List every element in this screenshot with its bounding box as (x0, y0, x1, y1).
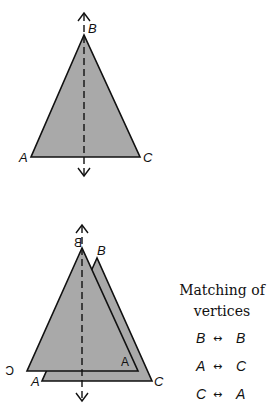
matching-legend: Matching of vertices B ↔ B A ↔ C C ↔ A (179, 282, 267, 402)
pair-left: A (195, 358, 205, 374)
pair-left: B (196, 330, 205, 346)
matching-pair: C ↔ A (196, 386, 245, 402)
matching-pair: B ↔ B (196, 330, 245, 346)
double-arrow-icon: ↔ (213, 360, 222, 373)
pair-right: B (236, 330, 245, 346)
pair-right: A (235, 386, 245, 402)
label-a-original: A (30, 374, 40, 389)
double-arrow-icon: ↔ (213, 388, 222, 401)
matching-title-line1: Matching of (179, 282, 267, 298)
label-a: A (18, 150, 28, 165)
matching-pair: A ↔ C (195, 358, 247, 374)
label-c: C (143, 150, 153, 165)
label-b: B (88, 21, 97, 36)
pair-left: C (196, 386, 207, 402)
triangle-abc (31, 35, 140, 157)
label-b-original: B (97, 243, 106, 258)
pair-right: C (236, 358, 247, 374)
top-figure: B A C (18, 13, 153, 176)
label-c-reflected: C (5, 364, 14, 378)
reflection-diagram: B A C B A C B C A Matching of vertices B… (0, 0, 278, 416)
bottom-figure: B A C B C A (5, 225, 164, 401)
label-c-original: C (154, 374, 164, 389)
label-a-reflected: A (121, 355, 129, 369)
matching-title-line2: vertices (193, 303, 250, 319)
label-b-reflected: B (74, 236, 82, 250)
double-arrow-icon: ↔ (213, 332, 222, 345)
